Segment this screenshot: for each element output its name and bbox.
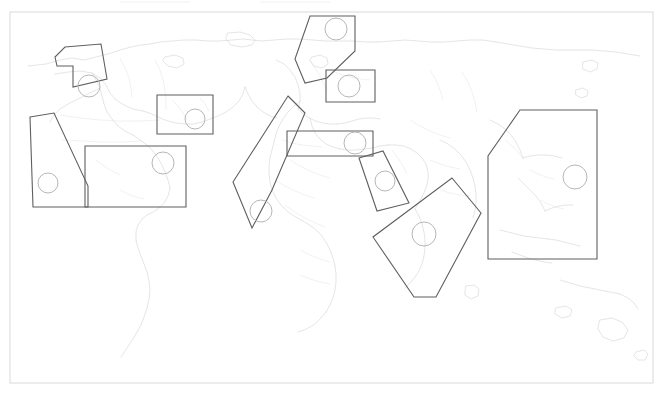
map-frame xyxy=(10,12,653,383)
world-map-figure xyxy=(0,0,663,397)
